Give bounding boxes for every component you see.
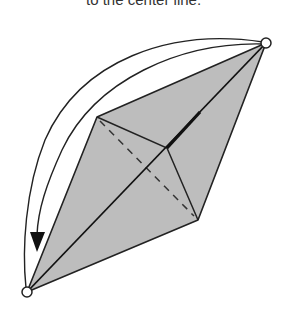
center-line — [27, 43, 266, 292]
arrow-head-icon — [30, 232, 45, 252]
origami-diagram — [0, 0, 297, 320]
top-point-marker — [261, 38, 271, 48]
bottom-point-marker — [22, 287, 32, 297]
